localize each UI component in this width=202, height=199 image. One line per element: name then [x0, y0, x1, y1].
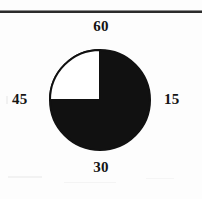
pie-chart-svg [48, 48, 152, 152]
scan-artifact [146, 178, 174, 179]
scan-artifact [6, 96, 8, 104]
scan-artifact [64, 182, 116, 183]
pie-slice-empty [50, 50, 100, 100]
figure-container: 60 15 30 45 [0, 0, 202, 199]
pie-label-left: 45 [12, 92, 28, 107]
pie-label-top: 60 [0, 19, 202, 34]
top-horizontal-rule [0, 11, 202, 13]
pie-chart [48, 48, 152, 152]
pie-label-right: 15 [164, 92, 180, 107]
pie-label-bottom: 30 [0, 160, 202, 175]
scan-artifact [8, 176, 42, 178]
